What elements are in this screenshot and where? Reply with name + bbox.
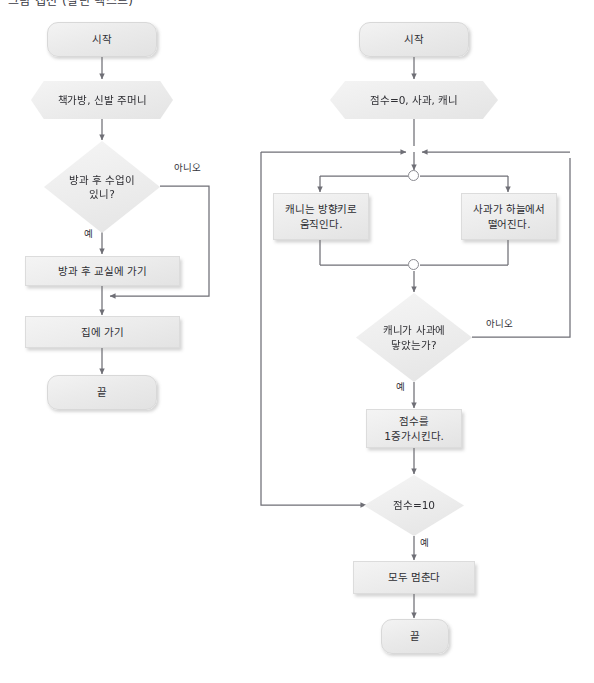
node-l-input-label: 책가방, 신발 주머니 <box>31 93 173 107</box>
node-r-canny-label: 캐니는 방향키로 움직인다. <box>285 202 358 230</box>
node-r-score-ten-label: 점수=10 <box>364 498 464 512</box>
edge-label-l-no: 아니오 <box>174 160 201 174</box>
node-l-end-label: 끝 <box>97 385 107 399</box>
fork-circle-connector <box>408 170 419 181</box>
wire-r-touch-no-loop <box>472 158 570 337</box>
node-r-end[interactable]: 끝 <box>381 619 449 654</box>
node-r-canny[interactable]: 캐니는 방향키로 움직인다. <box>273 193 369 240</box>
node-l-end[interactable]: 끝 <box>47 375 157 410</box>
node-l-home-label: 집에 가기 <box>81 325 124 339</box>
node-r-stop[interactable]: 모두 멈춘다 <box>353 561 475 594</box>
join-circle-connector <box>408 259 419 270</box>
node-r-score-up-label: 점수를 1증가시킨다. <box>384 414 443 442</box>
node-l-input[interactable]: 책가방, 신발 주머니 <box>31 81 173 119</box>
node-l-decision-label: 방과 후 수업이 있니? <box>44 173 160 201</box>
node-r-start[interactable]: 시작 <box>359 22 469 57</box>
node-l-start-label: 시작 <box>92 32 112 46</box>
node-r-touch-label: 캐니가 사과에 닿았는가? <box>356 323 472 351</box>
node-l-home[interactable]: 집에 가기 <box>25 316 180 348</box>
node-l-class[interactable]: 방과 후 교실에 가기 <box>25 256 180 286</box>
node-r-apple[interactable]: 사과가 하늘에서 떨어진다. <box>461 193 557 240</box>
node-r-score-up[interactable]: 점수를 1증가시킨다. <box>366 409 462 448</box>
node-r-start-label: 시작 <box>404 32 424 46</box>
edge-label-l-yes: 예 <box>84 226 93 240</box>
node-l-start[interactable]: 시작 <box>47 22 157 57</box>
node-r-init-label: 점수=0, 사과, 캐니 <box>330 93 498 107</box>
node-l-class-label: 방과 후 교실에 가기 <box>58 264 147 278</box>
node-r-apple-label: 사과가 하늘에서 떨어진다. <box>473 202 546 230</box>
edge-label-r-yes: 예 <box>396 379 405 393</box>
flowchart-page: 그림 캡션 (잘린 텍스트) <box>0 0 594 683</box>
edge-label-r-yes-ten: 예 <box>420 535 429 549</box>
node-r-end-label: 끝 <box>410 629 420 643</box>
node-r-stop-label: 모두 멈춘다 <box>388 570 441 584</box>
edge-label-r-no: 아니오 <box>486 316 513 330</box>
node-r-init[interactable]: 점수=0, 사과, 캐니 <box>330 81 498 119</box>
